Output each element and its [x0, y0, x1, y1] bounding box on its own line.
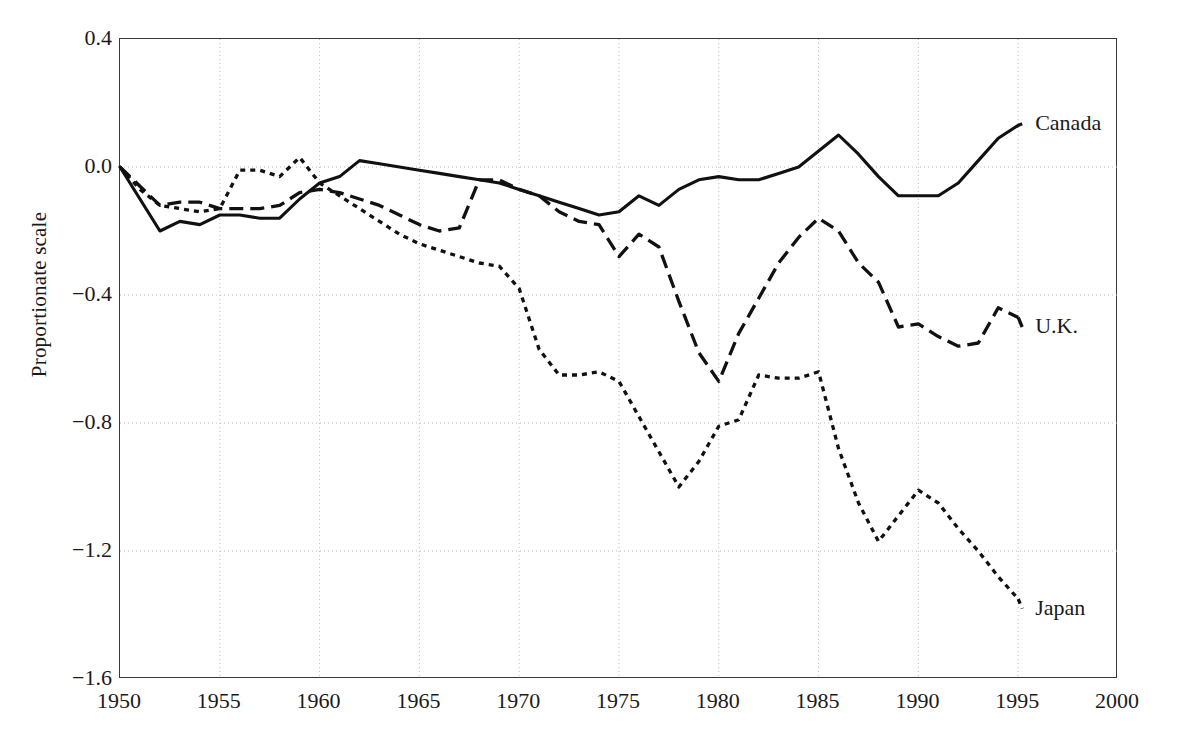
- series-label-connector: [1018, 124, 1022, 126]
- y-tick-label: −0.8: [40, 409, 112, 435]
- x-tick-label: 1975: [563, 688, 673, 714]
- x-tick-label: 1995: [962, 688, 1072, 714]
- y-tick-label: −1.2: [40, 537, 112, 563]
- series-label-connector: [1018, 599, 1022, 609]
- plot-area: [119, 38, 1117, 678]
- x-tick-label: 1985: [763, 688, 873, 714]
- series-label-japan: Japan: [1035, 595, 1085, 621]
- y-tick-label: −0.4: [40, 281, 112, 307]
- y-tick-label: 0.0: [40, 153, 112, 179]
- series-label-canada: Canada: [1035, 110, 1101, 136]
- x-tick-label: 1970: [463, 688, 573, 714]
- series-line-canada: [120, 125, 1018, 231]
- series-line-uk: [120, 167, 1018, 381]
- x-tick-label: 1980: [663, 688, 773, 714]
- chart-figure: Proportionate scale 0.40.0−0.4−0.8−1.2−1…: [0, 0, 1179, 754]
- x-tick-label: 1965: [363, 688, 473, 714]
- series-line-japan: [120, 157, 1018, 599]
- series-label-connector: [1018, 317, 1022, 327]
- y-axis-tick-labels: 0.40.0−0.4−0.8−1.2−1.6: [34, 0, 112, 754]
- series-label-uk: U.K.: [1035, 313, 1078, 339]
- x-tick-label: 1990: [862, 688, 972, 714]
- x-tick-label: 1955: [164, 688, 274, 714]
- x-tick-label: 2000: [1062, 688, 1172, 714]
- x-tick-label: 1960: [264, 688, 374, 714]
- x-axis-tick-labels: 1950195519601965197019751980198519901995…: [0, 688, 1179, 728]
- y-tick-label: 0.4: [40, 25, 112, 51]
- chart-svg: [120, 39, 1118, 679]
- x-tick-label: 1950: [64, 688, 174, 714]
